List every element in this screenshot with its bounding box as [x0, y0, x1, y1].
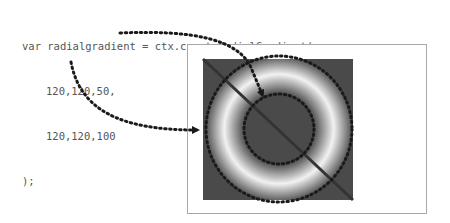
- gradient-diagram: [0, 0, 450, 223]
- arrow-end-circle: [71, 62, 196, 130]
